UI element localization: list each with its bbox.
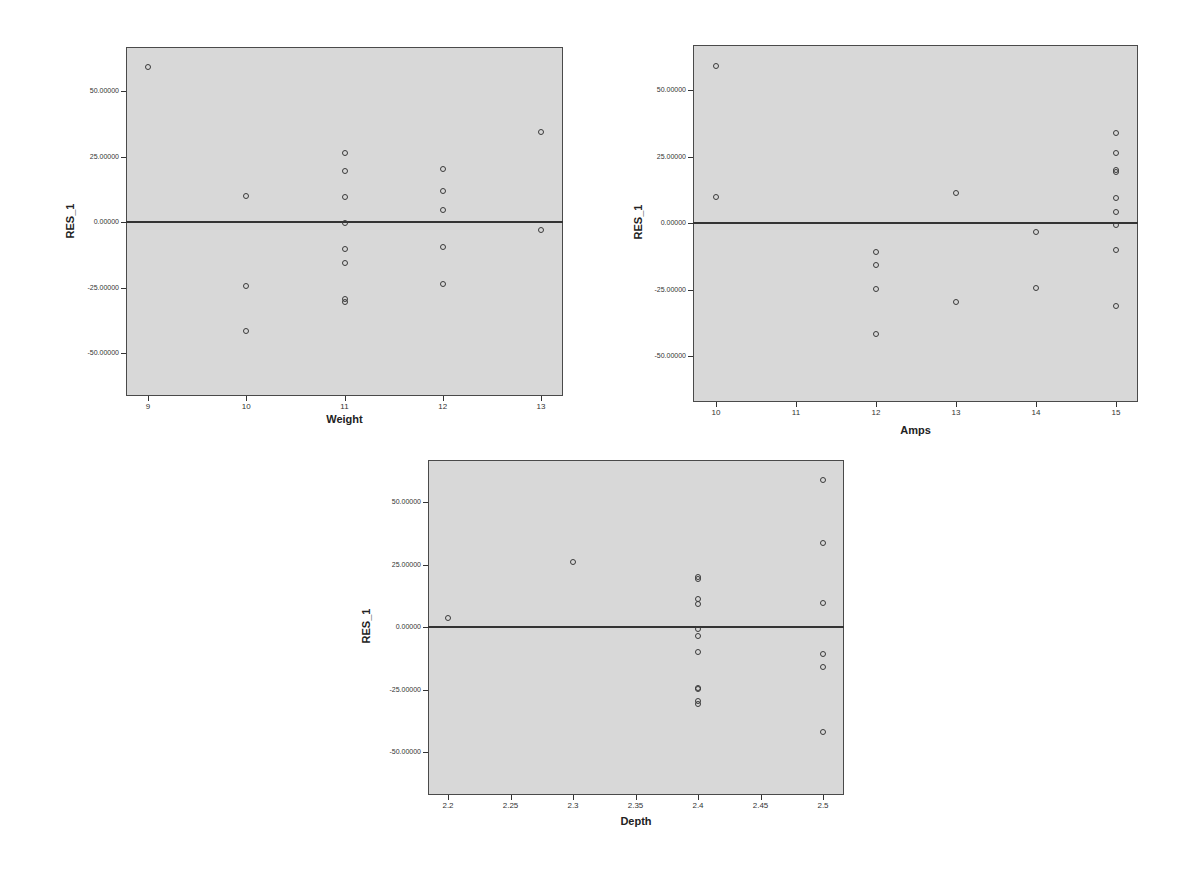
x-tick-label: 13 xyxy=(526,402,556,411)
y-tick xyxy=(688,90,693,91)
y-tick-label: -25.00000 xyxy=(626,286,686,294)
x-tick xyxy=(698,795,699,800)
y-tick xyxy=(423,502,428,503)
x-tick xyxy=(956,402,957,407)
x-tick-label: 12 xyxy=(428,402,458,411)
y-tick-label: 25.00000 xyxy=(626,153,686,161)
x-tick xyxy=(796,402,797,407)
x-axis-title: Depth xyxy=(586,815,686,827)
x-tick-label: 2.2 xyxy=(433,801,463,810)
y-tick xyxy=(121,222,126,223)
zero-reference-line xyxy=(428,626,844,628)
data-point-marker xyxy=(695,633,701,639)
y-tick xyxy=(423,565,428,566)
y-axis-title: RES_1 xyxy=(64,191,76,251)
x-tick xyxy=(761,795,762,800)
y-tick xyxy=(688,290,693,291)
data-point-marker xyxy=(1033,285,1039,291)
data-point-marker xyxy=(538,227,544,233)
data-point-marker xyxy=(713,63,719,69)
x-tick xyxy=(148,396,149,401)
zero-reference-line xyxy=(693,222,1138,224)
x-tick-label: 10 xyxy=(701,408,731,417)
y-tick-label: -25.00000 xyxy=(361,686,421,694)
y-tick-label: -25.00000 xyxy=(59,284,119,292)
x-tick-label: 11 xyxy=(781,408,811,417)
x-tick xyxy=(443,396,444,401)
x-axis-title: Amps xyxy=(866,424,966,436)
y-tick-label: 25.00000 xyxy=(361,561,421,569)
y-axis-title: RES_1 xyxy=(632,192,644,252)
y-tick-label: 25.00000 xyxy=(59,153,119,161)
data-point-marker xyxy=(695,576,701,582)
data-point-marker xyxy=(342,194,348,200)
x-tick-label: 9 xyxy=(133,402,163,411)
x-tick-label: 13 xyxy=(941,408,971,417)
data-point-marker xyxy=(570,559,576,565)
data-point-marker xyxy=(695,686,701,692)
y-tick-label: -50.00000 xyxy=(626,352,686,360)
x-tick-label: 10 xyxy=(231,402,261,411)
x-tick-label: 15 xyxy=(1101,408,1131,417)
y-axis-title: RES_1 xyxy=(360,596,372,656)
y-tick xyxy=(423,690,428,691)
data-point-marker xyxy=(1113,247,1119,253)
y-tick xyxy=(121,288,126,289)
y-tick xyxy=(121,157,126,158)
data-point-marker xyxy=(342,150,348,156)
x-tick-label: 2.3 xyxy=(558,801,588,810)
y-tick xyxy=(423,627,428,628)
data-point-marker xyxy=(695,601,701,607)
data-point-marker xyxy=(873,286,879,292)
x-tick xyxy=(573,795,574,800)
data-point-marker xyxy=(1113,150,1119,156)
data-point-marker xyxy=(953,190,959,196)
y-tick-label: -50.00000 xyxy=(361,748,421,756)
x-axis-title: Weight xyxy=(295,413,395,425)
data-point-marker xyxy=(342,299,348,305)
x-tick xyxy=(448,795,449,800)
x-tick xyxy=(246,396,247,401)
y-tick xyxy=(423,752,428,753)
y-tick-label: 50.00000 xyxy=(59,87,119,95)
y-tick-label: -50.00000 xyxy=(59,349,119,357)
x-tick xyxy=(1116,402,1117,407)
x-tick xyxy=(876,402,877,407)
x-tick xyxy=(636,795,637,800)
x-tick xyxy=(511,795,512,800)
data-point-marker xyxy=(820,729,826,735)
y-tick-label: 50.00000 xyxy=(361,498,421,506)
y-tick xyxy=(121,91,126,92)
x-tick xyxy=(1036,402,1037,407)
y-tick xyxy=(121,353,126,354)
data-point-marker xyxy=(342,260,348,266)
data-point-marker xyxy=(820,600,826,606)
y-tick xyxy=(688,223,693,224)
x-tick xyxy=(541,396,542,401)
data-point-marker xyxy=(820,540,826,546)
data-point-marker xyxy=(243,283,249,289)
data-point-marker xyxy=(342,246,348,252)
data-point-marker xyxy=(440,166,446,172)
y-tick xyxy=(688,157,693,158)
x-tick-label: 2.35 xyxy=(621,801,651,810)
data-point-marker xyxy=(820,664,826,670)
x-tick-label: 11 xyxy=(330,402,360,411)
data-point-marker xyxy=(342,220,348,226)
y-tick-label: 50.00000 xyxy=(626,86,686,94)
data-point-marker xyxy=(440,244,446,250)
data-point-marker xyxy=(695,649,701,655)
data-point-marker xyxy=(1113,169,1119,175)
x-tick-label: 2.5 xyxy=(808,801,838,810)
x-tick-label: 14 xyxy=(1021,408,1051,417)
y-tick xyxy=(688,356,693,357)
data-point-marker xyxy=(1113,303,1119,309)
x-tick-label: 2.25 xyxy=(496,801,526,810)
data-point-marker xyxy=(873,249,879,255)
x-tick xyxy=(716,402,717,407)
x-tick-label: 2.45 xyxy=(746,801,776,810)
data-point-marker xyxy=(445,615,451,621)
data-point-marker xyxy=(953,299,959,305)
x-tick xyxy=(345,396,346,401)
x-tick-label: 12 xyxy=(861,408,891,417)
